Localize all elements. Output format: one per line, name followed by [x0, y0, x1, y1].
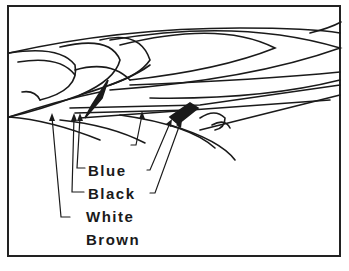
label-brown: Brown — [86, 232, 140, 247]
wing-feather-drawing — [0, 0, 349, 271]
label-blue: Blue — [88, 163, 127, 178]
label-white: White — [86, 209, 134, 224]
label-black: Black — [88, 186, 136, 201]
